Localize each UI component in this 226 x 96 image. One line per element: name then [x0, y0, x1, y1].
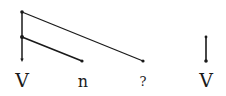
- node-dot-top: [20, 10, 24, 14]
- node-dot-mid: [20, 35, 24, 39]
- word-label-v2: V: [199, 71, 213, 90]
- arc-line-to-question: [22, 12, 143, 61]
- node-dot-v2-top: [205, 36, 208, 39]
- word-label-v1: V: [15, 71, 29, 90]
- word-label-n: n: [78, 74, 88, 90]
- dependency-diagram: V n ? V: [0, 0, 226, 96]
- node-dot-n: [80, 59, 83, 62]
- word-label-question: ?: [140, 75, 147, 88]
- arrow-icon: [20, 59, 23, 63]
- node-dot-question: [141, 59, 144, 62]
- diagram-lines: [0, 0, 226, 96]
- node-dot-v2-bottom: [204, 59, 208, 63]
- arc-line-to-n: [22, 37, 82, 61]
